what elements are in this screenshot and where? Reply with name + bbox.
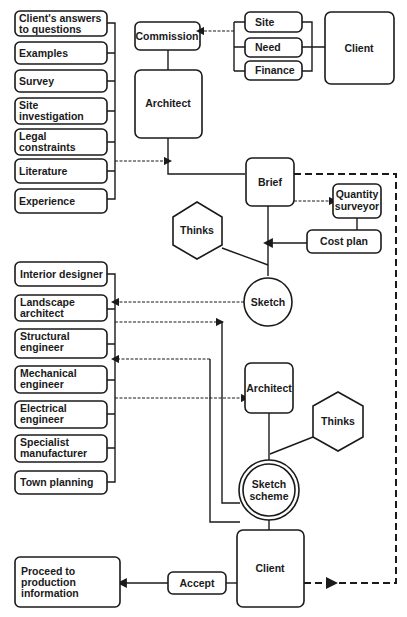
- svg-text:to questions: to questions: [19, 23, 82, 35]
- accept-label: Accept: [179, 577, 215, 589]
- client-loop-arrowhead: [326, 577, 338, 589]
- commission-label: Commission: [135, 30, 198, 42]
- sketch-scheme-label: Sketch: [252, 478, 286, 490]
- consultant-label: engineer: [20, 341, 64, 353]
- input-label: Experience: [19, 195, 75, 207]
- input-label: constraints: [19, 141, 76, 153]
- architect-top-label: Architect: [145, 97, 191, 109]
- consultant-boxes: Interior designer Landscape architect St…: [15, 262, 107, 494]
- input-label: Survey: [19, 75, 54, 87]
- client-top-label: Client: [344, 42, 374, 54]
- cost-plan-label: Cost plan: [320, 235, 368, 247]
- need-label: Finance: [255, 64, 295, 76]
- thinks-mid-label: Thinks: [321, 415, 355, 427]
- input-label: investigation: [19, 110, 84, 122]
- need-label: Need: [255, 41, 281, 53]
- input-label: to questions: [19, 23, 82, 35]
- need-label: Site: [255, 16, 274, 28]
- consultant-feedback-line-2: [210, 359, 240, 522]
- consultant-label: architect: [20, 307, 64, 319]
- qs-label: Quantity: [336, 188, 379, 200]
- consultant-label: engineer: [20, 378, 64, 390]
- qs-label: surveyor: [335, 200, 379, 212]
- sketch-scheme-label: scheme: [249, 490, 288, 502]
- input-label: Literature: [19, 165, 68, 177]
- consultant-label: engineer: [20, 413, 64, 425]
- proceed-label: information: [21, 587, 79, 599]
- thinks-top-label: Thinks: [180, 224, 214, 236]
- consultants-bracket: [107, 274, 115, 482]
- sketch-label: Sketch: [251, 296, 285, 308]
- architect-mid-label: Architect: [246, 382, 292, 394]
- consultant-label: Interior designer: [20, 268, 103, 280]
- brief-label: Brief: [258, 176, 282, 188]
- client-bottom-label: Client: [255, 562, 285, 574]
- input-boxes: Client's answers to questions Examples S…: [15, 11, 107, 213]
- input-label: Examples: [19, 47, 68, 59]
- consultant-label: manufacturer: [20, 447, 87, 459]
- consultant-label: Town planning: [20, 476, 93, 488]
- design-process-diagram: Client's answers to questions Examples S…: [0, 0, 407, 617]
- inputs-bracket: [107, 23, 115, 199]
- architect-to-brief-line: [168, 138, 245, 174]
- consultant-feedback-line-1: [220, 322, 240, 503]
